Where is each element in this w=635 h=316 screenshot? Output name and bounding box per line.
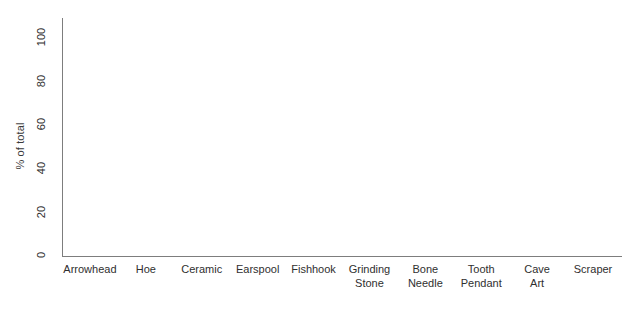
y-tick-label-60: 60 — [35, 107, 47, 141]
bar-chart: % of total 100 80 60 40 20 0 ArrowheadHo… — [0, 0, 635, 316]
x-axis-label: Cave Art — [509, 262, 565, 290]
y-tick-label-40: 40 — [35, 151, 47, 185]
y-tick-label-100: 100 — [35, 20, 47, 54]
x-axis-label: Hoe — [118, 262, 174, 276]
x-axis-label: Arrowhead — [62, 262, 118, 276]
x-axis-label: Grinding Stone — [342, 262, 398, 290]
y-tick-label-80: 80 — [35, 64, 47, 98]
plot-area — [63, 18, 622, 256]
x-axis-line — [62, 256, 622, 257]
x-axis-label: Ceramic — [174, 262, 230, 276]
x-axis-label: Fishhook — [286, 262, 342, 276]
x-axis-label: Earspool — [230, 262, 286, 276]
x-axis-label: Scraper — [565, 262, 621, 276]
x-axis-label: Tooth Pendant — [453, 262, 509, 290]
x-axis-label: Bone Needle — [397, 262, 453, 290]
x-axis-labels: ArrowheadHoeCeramicEarspoolFishhookGrind… — [62, 262, 622, 308]
y-tick-label-0: 0 — [35, 238, 47, 272]
y-axis-title: % of total — [14, 101, 26, 191]
y-tick-label-20: 20 — [35, 195, 47, 229]
